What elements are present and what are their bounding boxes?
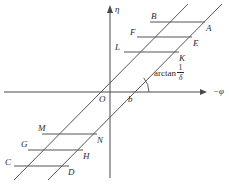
point-label-K: K	[179, 54, 185, 63]
arctan-text: arctan	[154, 69, 176, 78]
origin-label: O	[99, 95, 106, 104]
fraction-numerator: 1	[177, 64, 183, 72]
point-label-C: C	[5, 158, 11, 167]
fraction-denominator: δ	[178, 74, 184, 82]
arctan-fraction: 1 δ	[177, 64, 184, 82]
point-label-D: D	[68, 168, 75, 177]
point-label-N: N	[97, 136, 103, 145]
point-label-E: E	[193, 39, 199, 48]
point-label-H: H	[83, 152, 90, 161]
point-label-M: M	[38, 124, 46, 133]
intercept-label-b: b	[128, 95, 133, 104]
phi-axis-arrow	[200, 89, 207, 95]
point-label-A: A	[206, 24, 212, 33]
figure-canvas: −φ η O b B A F E L K M N G H C D arctan …	[0, 0, 229, 186]
eta-axis-arrow	[107, 5, 113, 13]
point-label-F: F	[130, 28, 136, 37]
point-label-L: L	[115, 43, 120, 52]
arctan-annotation: arctan 1 δ	[154, 64, 184, 82]
point-label-B: B	[151, 12, 157, 21]
point-label-G: G	[21, 140, 28, 149]
phi-axis-label: −φ	[213, 87, 224, 96]
diagram-svg	[0, 0, 229, 186]
eta-axis-label: η	[115, 5, 119, 14]
